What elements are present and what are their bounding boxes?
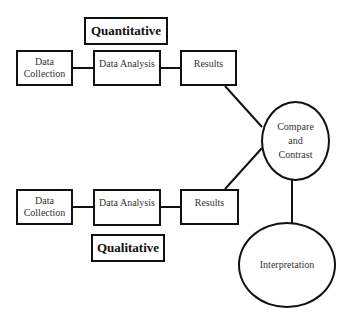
node-text: Interpretation bbox=[260, 258, 314, 272]
quant-data-collection-node: Data Collection bbox=[16, 50, 73, 86]
quant-results-node: Results bbox=[180, 50, 237, 86]
qual-data-collection-node: Data Collection bbox=[16, 189, 73, 225]
node-text: Data Analysis bbox=[99, 58, 155, 70]
interpretation-node: Interpretation bbox=[238, 222, 336, 308]
qual-data-analysis-node: Data Analysis bbox=[93, 189, 161, 226]
qualitative-label-text: Qualitative bbox=[97, 242, 159, 254]
qual-results-node: Results bbox=[180, 189, 239, 225]
node-text: Data Analysis bbox=[99, 197, 155, 209]
node-text: Data Collection bbox=[24, 56, 66, 80]
qualitative-label: Qualitative bbox=[91, 234, 165, 262]
quantitative-label: Quantitative bbox=[84, 17, 168, 45]
quant-data-analysis-node: Data Analysis bbox=[93, 50, 161, 86]
node-text: Data Collection bbox=[24, 195, 66, 219]
compare-and-contrast-node: Compare and Contrast bbox=[261, 101, 330, 181]
node-text: Results bbox=[194, 58, 223, 70]
quantitative-label-text: Quantitative bbox=[91, 25, 161, 37]
node-text: Compare and Contrast bbox=[277, 120, 314, 162]
node-text: Results bbox=[195, 197, 224, 209]
